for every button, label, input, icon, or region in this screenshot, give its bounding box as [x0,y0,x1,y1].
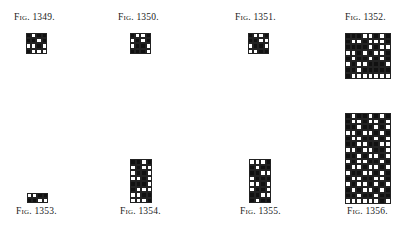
weave-grid [345,113,391,204]
empty-square [385,198,391,204]
weave-grid [130,159,152,203]
figure-label: Fig. 1356. [347,206,388,216]
figure-label: Fig. 1352. [345,12,386,22]
figure-label: Fig. 1353. [16,206,57,216]
figure-label: Fig. 1349. [14,12,55,22]
weave-grid [27,193,48,203]
weave-grid [26,33,47,54]
empty-square [43,198,48,203]
weave-grid [249,159,271,203]
empty-square [146,49,151,54]
filled-square [266,198,272,204]
empty-square [385,73,391,79]
empty-square [42,49,47,54]
filled-square [147,198,153,204]
figure-label: Fig. 1354. [120,206,161,216]
figure-label: Fig. 1351. [235,12,276,22]
filled-square [264,49,269,54]
figure-label: Fig. 1350. [118,12,159,22]
weave-grid [345,33,391,79]
figure-label: Fig. 1355. [240,206,281,216]
weave-grid [248,33,269,54]
weave-grid [130,33,151,54]
